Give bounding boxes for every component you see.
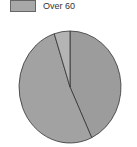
pie-chart: [0, 0, 137, 147]
